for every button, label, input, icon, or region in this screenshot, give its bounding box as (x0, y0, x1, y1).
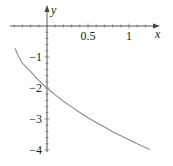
x-axis-label: x (154, 27, 161, 41)
y-axis-tick-labels: −1−2−3−4 (29, 50, 42, 157)
y-axis-arrow-icon (45, 5, 50, 12)
plot-area: x y 0.51 −1−2−3−4 (0, 0, 173, 166)
x-tick-label: 0.5 (81, 29, 96, 43)
x-axis-tick-labels: 0.51 (81, 29, 133, 43)
y-tick-label: −1 (29, 50, 42, 64)
y-axis-label: y (50, 3, 57, 17)
y-tick-label: −3 (29, 112, 42, 126)
x-tick-label: 1 (126, 29, 132, 43)
y-tick-label: −4 (29, 143, 42, 157)
y-tick-label: −2 (29, 81, 42, 95)
